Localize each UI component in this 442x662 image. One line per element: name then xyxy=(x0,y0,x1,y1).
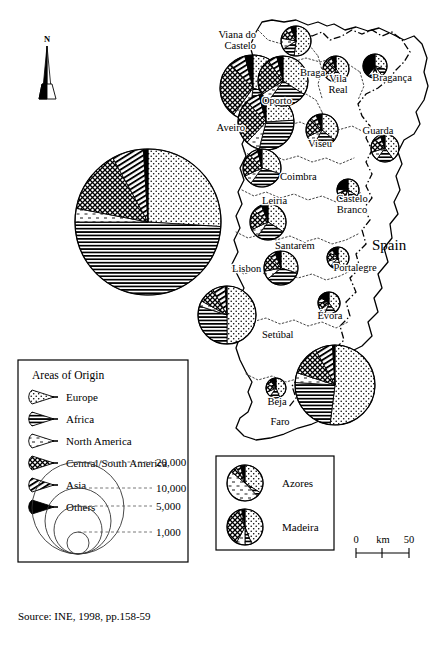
north-arrow-label: N xyxy=(44,34,51,44)
district-label-lisbon: Lisbon xyxy=(232,263,262,274)
pie-viana-do-castelo xyxy=(281,26,311,56)
inset-items: AzoresMadeira xyxy=(227,465,319,545)
pie-santar-m xyxy=(264,251,298,285)
inset-label-azores: Azores xyxy=(282,477,313,489)
pie-azores xyxy=(227,465,263,501)
north-arrow: N xyxy=(39,34,56,99)
legend-title: Areas of Origin xyxy=(32,369,104,382)
district-label-aveiro: Aveiro xyxy=(217,122,245,133)
legend-entry: Europe xyxy=(29,390,98,404)
legend-entry-label: North America xyxy=(66,435,132,447)
legend-swatch-fine-dots xyxy=(29,390,54,404)
district-label-vila-real: VilaReal xyxy=(328,73,347,95)
district-label-viseu: Viseu xyxy=(308,138,333,149)
district-label-bragan-a: Bragança xyxy=(372,72,412,83)
size-legend-label: 1,000 xyxy=(156,526,181,538)
pie-slice xyxy=(75,222,221,295)
district-label-guarda: Guarda xyxy=(363,125,394,136)
legend-entry: Africa xyxy=(29,412,95,426)
inset-label-madeira: Madeira xyxy=(282,521,319,533)
district-label-castelo-branco: CasteloBranco xyxy=(336,193,368,215)
source-note: Source: INE, 1998, pp.158-59 xyxy=(18,610,151,622)
district-label-leiria: Leiria xyxy=(262,195,287,206)
size-legend: 20,00010,0005,0001,000 xyxy=(32,456,187,554)
pie-coimbra xyxy=(243,149,281,187)
legend-swatch-horizontal-lines xyxy=(29,412,54,426)
scalebar-max-label: 50 xyxy=(404,534,415,545)
pie-slice xyxy=(330,345,375,425)
legend-swatch-cross-hatch-grid xyxy=(29,456,54,470)
pie-madeira xyxy=(227,509,263,545)
pie-slice xyxy=(148,149,221,227)
migration-pie-map: N xyxy=(0,0,442,662)
district-label-santar-m: Santarém xyxy=(275,240,315,251)
pie-lisbon xyxy=(75,149,221,295)
district-label-oporto: Oporto xyxy=(262,95,292,106)
district-label-portalegre: Portalegre xyxy=(333,262,376,273)
district-label-coimbra: Coimbra xyxy=(280,171,317,182)
district-label-set-bal: Setúbal xyxy=(262,329,294,340)
district-label-beja: Beja xyxy=(267,396,287,407)
islands-inset-panel: AzoresMadeira xyxy=(216,456,334,550)
pie-guarda xyxy=(371,134,399,162)
size-legend-label: 20,000 xyxy=(156,456,187,468)
legend-entry: Central/South America xyxy=(29,456,168,470)
pie-set-bal xyxy=(198,286,256,344)
legend-panel: Areas of Origin EuropeAfricaNorth Americ… xyxy=(18,360,188,562)
scalebar-unit-label: km xyxy=(376,534,389,545)
scalebar-graphic xyxy=(356,548,409,558)
scalebar-zero-label: 0 xyxy=(353,534,358,545)
pie-leiria xyxy=(250,204,286,240)
pie-faro xyxy=(295,345,375,425)
figure-root: N xyxy=(0,0,442,662)
legend-swatch-blank-white xyxy=(29,434,54,448)
district-label-braga: Braga xyxy=(300,67,325,78)
legend-entry: North America xyxy=(29,434,132,448)
size-legend-label: 5,000 xyxy=(156,500,181,512)
size-legend-circle xyxy=(45,488,111,554)
size-legend-circle xyxy=(54,506,102,554)
size-legend-label: 10,000 xyxy=(156,482,187,494)
scale-bar: 0 km 50 xyxy=(353,534,414,558)
district-label-viana-do-castelo: Viana doCastelo xyxy=(218,29,256,51)
legend-entry-label: Africa xyxy=(66,413,94,425)
legend-entry-label: Central/South America xyxy=(66,457,167,469)
size-legend-circle xyxy=(67,532,89,554)
legend-entries: EuropeAfricaNorth AmericaCentral/South A… xyxy=(29,390,168,514)
neighbour-country-label: Spain xyxy=(372,237,407,253)
legend-entry-label: Europe xyxy=(66,391,98,403)
district-label-faro: Faro xyxy=(270,416,289,427)
pie-beja xyxy=(266,378,286,398)
legend-entry: Asia xyxy=(29,478,87,492)
district-label--vora: Évora xyxy=(317,310,342,321)
